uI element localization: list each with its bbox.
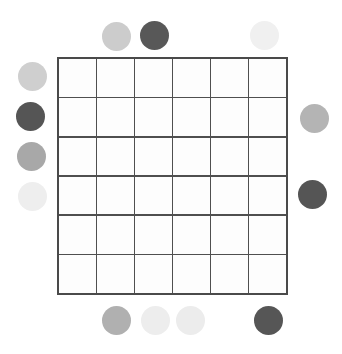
grid-cell-r1c1[interactable] (59, 59, 96, 97)
grid-cell-r4c1[interactable] (59, 177, 96, 215)
token-bottom-3[interactable] (176, 306, 205, 335)
grid-cell-r6c5[interactable] (211, 255, 248, 293)
grid-cell-r2c6[interactable] (249, 98, 286, 136)
grid-cell-r1c5[interactable] (211, 59, 248, 97)
token-top-3[interactable] (250, 21, 279, 50)
token-top-2[interactable] (140, 21, 169, 50)
grid-cell-r3c4[interactable] (173, 138, 210, 176)
grid-cell-r5c3[interactable] (135, 216, 172, 254)
token-top-1[interactable] (102, 22, 131, 51)
grid-cell-r2c5[interactable] (211, 98, 248, 136)
grid-cell-r5c2[interactable] (97, 216, 134, 254)
puzzle-stage (0, 0, 342, 354)
token-left-3[interactable] (17, 142, 46, 171)
grid-cell-r5c5[interactable] (211, 216, 248, 254)
grid-cell-r2c3[interactable] (135, 98, 172, 136)
token-bottom-4[interactable] (254, 306, 283, 335)
token-left-1[interactable] (18, 62, 47, 91)
token-left-2[interactable] (16, 102, 45, 131)
grid-cell-r1c2[interactable] (97, 59, 134, 97)
token-left-4[interactable] (18, 182, 47, 211)
token-bottom-2[interactable] (141, 306, 170, 335)
grid-cell-r6c3[interactable] (135, 255, 172, 293)
token-bottom-1[interactable] (102, 306, 131, 335)
grid-cell-r4c3[interactable] (135, 177, 172, 215)
grid-cell-r1c3[interactable] (135, 59, 172, 97)
grid-cell-r1c4[interactable] (173, 59, 210, 97)
grid-cell-r6c6[interactable] (249, 255, 286, 293)
grid-cell-r3c6[interactable] (249, 138, 286, 176)
grid-cell-r2c1[interactable] (59, 98, 96, 136)
grid-cell-r3c5[interactable] (211, 138, 248, 176)
grid-cell-r6c4[interactable] (173, 255, 210, 293)
grid-cell-r4c2[interactable] (97, 177, 134, 215)
grid-cell-r3c3[interactable] (135, 138, 172, 176)
grid-cell-r5c4[interactable] (173, 216, 210, 254)
grid-cell-r5c6[interactable] (249, 216, 286, 254)
grid-cell-r1c6[interactable] (249, 59, 286, 97)
grid-board[interactable] (57, 57, 288, 295)
grid-cell-r6c2[interactable] (97, 255, 134, 293)
token-right-2[interactable] (298, 180, 327, 209)
grid-cell-r4c4[interactable] (173, 177, 210, 215)
grid-cell-r3c2[interactable] (97, 138, 134, 176)
grid-cell-r5c1[interactable] (59, 216, 96, 254)
grid-cell-r3c1[interactable] (59, 138, 96, 176)
grid-cell-r4c5[interactable] (211, 177, 248, 215)
grid-cell-r2c4[interactable] (173, 98, 210, 136)
grid-cell-r4c6[interactable] (249, 177, 286, 215)
token-right-1[interactable] (300, 104, 329, 133)
grid-cell-r2c2[interactable] (97, 98, 134, 136)
grid-cell-r6c1[interactable] (59, 255, 96, 293)
